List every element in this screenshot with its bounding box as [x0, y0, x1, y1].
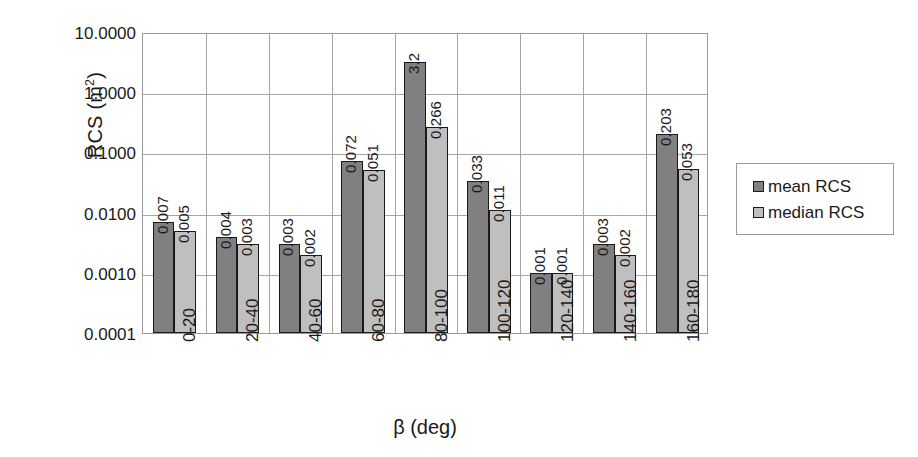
x-axis-tick-label: 60-80 — [370, 299, 387, 342]
y-axis-tick-label: 0.1000 — [44, 145, 136, 162]
y-axis-tick-label: 0.0010 — [44, 266, 136, 283]
legend-item: mean RCS — [737, 173, 893, 199]
bar-value-label: 0.051 — [365, 144, 380, 182]
x-axis-tick-label: 40-60 — [307, 299, 324, 342]
bar-value-label: 0.011 — [491, 185, 506, 222]
vertical-gridline — [646, 34, 647, 333]
y-axis-tick-labels: 10.00001.00000.10000.01000.00100.0001 — [40, 0, 136, 457]
vertical-gridline — [583, 34, 584, 333]
bar-chart: RCS (m2) 10.00001.00000.10000.01000.0010… — [0, 0, 918, 457]
vertical-gridline — [332, 34, 333, 333]
bar-value-label: 0.005 — [176, 205, 191, 243]
bar-mean — [153, 222, 175, 333]
vertical-gridline — [206, 34, 207, 333]
y-axis-tick-label: 0.0100 — [44, 206, 136, 223]
vertical-gridline — [395, 34, 396, 333]
y-axis-tick-label: 10.0000 — [44, 25, 136, 42]
bar-value-label: 0.002 — [617, 229, 632, 267]
y-axis-tick-label: 0.0001 — [44, 326, 136, 343]
bar-mean — [593, 244, 615, 333]
x-axis-tick-label: 80-100 — [433, 289, 450, 342]
legend-swatch-icon — [753, 207, 764, 218]
bar-value-label: 0.203 — [658, 108, 673, 146]
x-axis-tick-label: 0-20 — [181, 308, 198, 342]
bar-value-label: 0.002 — [302, 229, 317, 267]
x-axis-tick-label: 100-120 — [496, 280, 513, 342]
y-axis-tick-label: 1.0000 — [44, 85, 136, 102]
bar-mean — [341, 161, 363, 333]
chart-legend: mean RCSmedian RCS — [736, 163, 894, 235]
x-axis-title: β (deg) — [142, 416, 708, 439]
bar-mean — [216, 237, 238, 333]
bar-mean — [467, 181, 489, 333]
bar-value-label: 0.003 — [595, 218, 610, 256]
legend-item-label: median RCS — [768, 204, 864, 221]
x-axis-tick-label: 160-180 — [685, 280, 702, 342]
bar-value-label: 0.072 — [343, 135, 358, 173]
x-axis-tick-label: 120-140 — [559, 280, 576, 342]
bar-value-label: 0.003 — [280, 218, 295, 256]
vertical-gridline — [457, 34, 458, 333]
x-axis-tick-label: 140-160 — [622, 280, 639, 342]
bar-value-label: 0.001 — [532, 247, 547, 285]
bar-mean — [404, 62, 426, 333]
legend-swatch-icon — [753, 181, 764, 192]
legend-item-label: mean RCS — [768, 178, 851, 195]
bar-value-label: 0.033 — [469, 155, 484, 193]
x-axis-tick-label: 20-40 — [244, 299, 261, 342]
vertical-gridline — [269, 34, 270, 333]
vertical-gridline — [520, 34, 521, 333]
bar-value-label: 0.266 — [428, 101, 443, 139]
bar-value-label: 0.004 — [218, 211, 233, 249]
bar-value-label: 0.007 — [155, 196, 170, 234]
bar-mean — [656, 134, 678, 333]
bar-value-label: 0.053 — [679, 143, 694, 181]
bar-value-label: 0.003 — [239, 218, 254, 256]
bar-value-label: 3.2 — [406, 53, 421, 74]
bar-mean — [279, 244, 301, 333]
legend-item: median RCS — [737, 199, 893, 225]
